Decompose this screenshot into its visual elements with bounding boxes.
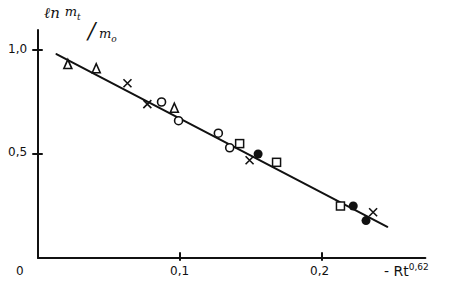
y-label-slash: /: [88, 18, 95, 43]
y-axis-label: ℓn mt: [44, 4, 81, 24]
circle-filled-marker: [254, 150, 263, 159]
x-label-exp: 0,62: [409, 262, 429, 272]
cross-marker: [369, 208, 377, 216]
y-tick-label-1: 1,0: [8, 42, 27, 56]
circle-open-marker: [226, 144, 234, 152]
cross-marker: [123, 79, 131, 87]
triangle-marker: [92, 64, 100, 73]
y-tick-label-0.5: 0,5: [8, 145, 27, 159]
y-label-num-sub: t: [77, 12, 81, 22]
plot-area: [0, 0, 449, 293]
y-label-num: mt: [65, 4, 81, 19]
circle-filled-marker: [362, 216, 371, 225]
x-axis-label: - Rt0,62: [384, 262, 429, 279]
triangle-marker: [170, 103, 178, 112]
square-marker: [336, 202, 344, 210]
x-tick-label-0.1: 0,1: [170, 264, 189, 278]
x-tick-label-0.2: 0,2: [310, 264, 329, 278]
circle-open-marker: [175, 117, 183, 125]
y-label-den: mo: [99, 26, 117, 44]
square-marker: [273, 158, 281, 166]
y-label-den-text: m: [99, 26, 111, 41]
cross-marker: [246, 156, 254, 164]
circle-open-marker: [158, 98, 166, 106]
circle-open-marker: [214, 129, 222, 137]
circle-filled-marker: [349, 202, 358, 211]
y-label-num-text: m: [65, 4, 77, 19]
fit-line: [56, 54, 387, 227]
y-label-den-sub: o: [111, 34, 116, 44]
origin-label: 0: [16, 264, 24, 278]
y-label-ln: ℓn: [44, 4, 60, 22]
x-label-base: - Rt: [384, 263, 409, 279]
chart: ℓn mt / mo 1,0 0,5 0 0,1 0,2 - Rt0,62: [0, 0, 449, 293]
square-marker: [236, 140, 244, 148]
